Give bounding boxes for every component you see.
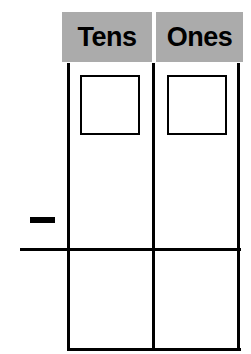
column-header-tens: Tens [62, 12, 152, 62]
subtraction-answer-rule [20, 248, 241, 251]
column-rule-left [67, 63, 70, 351]
minus-sign-icon [30, 217, 55, 223]
worksheet-bottom-rule [67, 348, 241, 351]
column-rule-right [237, 63, 240, 351]
place-value-subtraction-worksheet: Tens Ones [0, 0, 251, 354]
column-header-ones: Ones [156, 12, 243, 62]
digit-entry-box-tens[interactable] [80, 75, 140, 135]
column-rule-middle [152, 63, 155, 351]
digit-entry-box-ones[interactable] [167, 75, 227, 135]
